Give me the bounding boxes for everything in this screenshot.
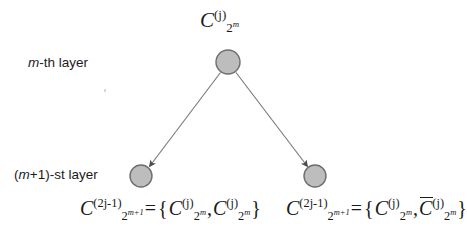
right-comma: , bbox=[412, 197, 419, 219]
left-term2-superscript: (j) bbox=[226, 196, 238, 210]
layer-label-m-th-italic: m bbox=[28, 55, 39, 70]
expression-right-child: C(2j-1)2m+1={C(j)2m,C(j)2m} bbox=[286, 198, 467, 218]
node-parent[interactable] bbox=[216, 50, 240, 74]
left-term2-subscript: 2m bbox=[238, 209, 250, 223]
expression-parent-node: C(j)2m bbox=[200, 10, 239, 31]
left-lhs-base: C bbox=[80, 197, 93, 219]
parent-subscript-power: m bbox=[233, 19, 239, 29]
node-child-left[interactable] bbox=[130, 165, 152, 187]
right-term1-base: C bbox=[375, 197, 388, 219]
left-term1-superscript: (j) bbox=[182, 196, 194, 210]
right-lhs-base: C bbox=[286, 197, 299, 219]
parent-subscript: 2m bbox=[226, 20, 239, 35]
left-term1-subscript: 2m bbox=[194, 209, 206, 223]
parent-base-symbol: C bbox=[200, 8, 214, 32]
layer-label-m-th: m-th layer bbox=[28, 56, 88, 70]
right-close-brace: } bbox=[456, 197, 467, 219]
layer-label-m-th-rest: -th layer bbox=[39, 55, 88, 70]
left-close-brace: } bbox=[250, 197, 262, 219]
layer-label-m-plus-1-italic: m bbox=[19, 167, 30, 182]
left-lhs-subscript-power: m+1 bbox=[128, 207, 144, 217]
left-comma: , bbox=[206, 197, 213, 219]
right-term2-subscript: 2m bbox=[444, 209, 456, 223]
left-equals-sign: = bbox=[144, 197, 157, 219]
right-equals-sign: = bbox=[350, 197, 363, 219]
right-term1-subscript: 2m bbox=[400, 209, 412, 223]
node-child-right[interactable] bbox=[304, 165, 326, 187]
left-term1-base: C bbox=[169, 197, 182, 219]
scan-artifact-speck bbox=[104, 89, 106, 92]
left-lhs-superscript: (2j-1) bbox=[93, 196, 121, 210]
right-lhs-subscript: 2m+1 bbox=[328, 209, 350, 223]
right-lhs-superscript: (2j-1) bbox=[299, 196, 327, 210]
right-open-brace: { bbox=[363, 197, 375, 219]
left-lhs-subscript: 2m+1 bbox=[122, 209, 144, 223]
parent-superscript: (j) bbox=[214, 7, 226, 22]
left-term2-base: C bbox=[213, 197, 226, 219]
figure-canvas: m-th layer (m+1)-st layer C(j)2m C(2j-1)… bbox=[0, 0, 467, 244]
right-term1-superscript: (j) bbox=[388, 196, 400, 210]
right-term2-superscript: (j) bbox=[432, 196, 444, 210]
layer-label-m-plus-1-st: (m+1)-st layer bbox=[14, 168, 98, 182]
right-term2-base-overlined: C bbox=[419, 198, 432, 218]
layer-label-m-plus-1-rest: +1)-st layer bbox=[30, 167, 98, 182]
expression-left-child: C(2j-1)2m+1={C(j)2m,C(j)2m} bbox=[80, 198, 262, 218]
edge-parent-to-right-child bbox=[236, 73, 308, 167]
edge-parent-to-left-child bbox=[150, 73, 221, 167]
right-lhs-subscript-power: m+1 bbox=[334, 207, 350, 217]
left-open-brace: { bbox=[157, 197, 169, 219]
